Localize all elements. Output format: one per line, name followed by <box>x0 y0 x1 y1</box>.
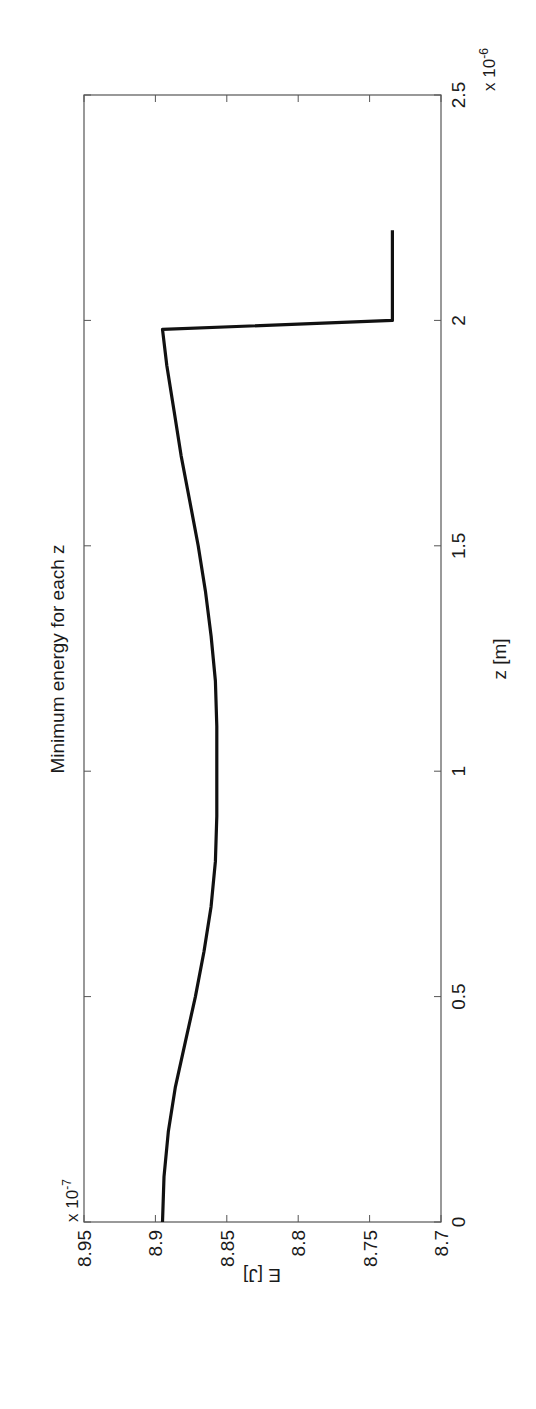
y-exponent-label: x 10-7 <box>60 1179 82 1222</box>
x-tick-label: 1.5 <box>448 533 469 559</box>
y-tick-label: 8.9 <box>145 1230 166 1256</box>
x-tick-label: 1 <box>448 766 469 777</box>
x-tick-label: 2 <box>448 315 469 326</box>
x-tick-label: 2.5 <box>448 82 469 108</box>
energy-curve <box>163 230 393 1222</box>
y-tick-label: 8.85 <box>217 1230 238 1267</box>
x-axis: 00.511.522.5 <box>84 82 469 1228</box>
chart-stage: Minimum energy for each z 00.511.522.5 8… <box>0 0 536 1409</box>
y-tick-label: 8.75 <box>360 1230 381 1267</box>
chart-title: Minimum energy for each z <box>47 544 68 773</box>
y-axis: 8.78.758.88.858.98.95 <box>74 95 452 1267</box>
plot-area <box>84 95 441 1222</box>
x-axis-label: z [m] <box>489 638 510 679</box>
y-tick-label: 8.8 <box>288 1230 309 1256</box>
x-exponent-label: x 10-6 <box>477 48 499 91</box>
x-tick-label: 0 <box>448 1217 469 1228</box>
y-tick-label: 8.7 <box>431 1230 452 1256</box>
y-axis-label: E [J] <box>243 1265 281 1286</box>
line-chart: Minimum energy for each z 00.511.522.5 8… <box>0 0 536 1409</box>
y-tick-label: 8.95 <box>74 1230 95 1267</box>
x-tick-label: 0.5 <box>448 983 469 1009</box>
